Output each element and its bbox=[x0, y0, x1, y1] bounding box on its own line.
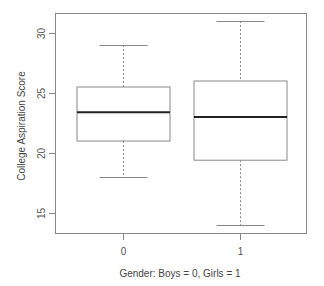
y-tick-label: 15 bbox=[36, 208, 47, 220]
box-group-0 bbox=[77, 45, 170, 178]
boxplot-chart: 15202530 01 Gender: Boys = 0, Girls = 1 … bbox=[0, 0, 324, 286]
box-group-1 bbox=[194, 21, 287, 226]
x-axis-label: Gender: Boys = 0, Girls = 1 bbox=[119, 268, 241, 279]
y-axis: 15202530 bbox=[36, 28, 56, 220]
y-tick-label: 30 bbox=[36, 28, 47, 40]
y-tick-label: 20 bbox=[36, 148, 47, 160]
iqr-box bbox=[194, 81, 287, 160]
y-axis-label: College Aspiration Score bbox=[16, 71, 27, 181]
y-tick-label: 25 bbox=[36, 88, 47, 100]
boxes bbox=[77, 21, 287, 226]
x-axis: 01 bbox=[121, 234, 244, 258]
iqr-box bbox=[77, 87, 170, 141]
x-tick-label: 0 bbox=[121, 246, 127, 257]
x-tick-label: 1 bbox=[238, 246, 244, 257]
